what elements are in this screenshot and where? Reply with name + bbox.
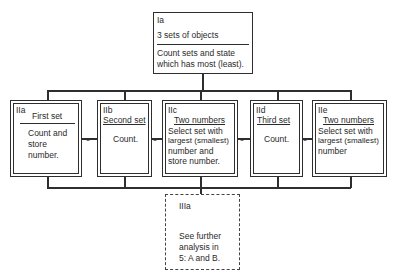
node-body-line: store [28, 139, 47, 150]
arrowhead-icon: ◂▸ [85, 136, 91, 142]
node-ia: Ia 3 sets of objects Count sets and stat… [153, 12, 253, 74]
node-title: Third set [257, 115, 290, 125]
node-body-line: 5: A and B. [179, 253, 220, 264]
node-body-line: number. [28, 150, 59, 161]
connector-drop-iid [277, 90, 279, 100]
node-iic: IIc Two numbers Select set with largest … [162, 100, 238, 177]
node-iie: IIe Two numbers Select set with largest … [312, 100, 387, 177]
connector-top-bus [47, 90, 351, 92]
node-title: 3 sets of objects [157, 30, 218, 41]
node-body-line: Select set with [318, 126, 373, 137]
node-iiia: IIIa See further analysis in 5: A and B. [165, 194, 240, 270]
node-body-line: Count. [264, 134, 289, 145]
node-body-line: which has most (least). [157, 59, 244, 70]
connector-rise-iie [350, 177, 352, 188]
connector-rise-iid [277, 177, 279, 188]
divider [157, 44, 249, 45]
node-body-line: number [318, 146, 347, 157]
node-id: Ia [157, 15, 164, 25]
connector-rise-iia [47, 177, 49, 188]
node-body-line: Count. [113, 134, 138, 145]
node-iib: IIb Second set Count. [97, 100, 152, 177]
node-id: IIa [16, 105, 25, 115]
connector-bottom-vertical [200, 187, 202, 194]
node-iid: IId Third set Count. [250, 100, 303, 177]
arrowhead-icon: ◂▸ [152, 136, 158, 142]
node-body-line: See further [179, 231, 221, 242]
node-iia: IIa First set Count and store number. [10, 100, 82, 177]
node-body-line: largest (smallest) [168, 136, 229, 147]
node-title: Second set [103, 115, 146, 125]
connector-drop-iib [124, 90, 126, 100]
connector-drop-iie [350, 90, 352, 100]
node-title: Two numbers [174, 115, 225, 125]
arrowhead-icon: ◂▸ [239, 136, 245, 142]
node-title: Two numbers [323, 115, 374, 125]
node-id: IIc [168, 105, 177, 115]
node-body-line: Count sets and state [157, 48, 235, 59]
connector-rise-iib [124, 177, 126, 188]
node-body-line: Count and [28, 128, 67, 139]
divider [20, 123, 75, 124]
node-id: IIIa [179, 201, 191, 211]
connector-top-vertical [202, 73, 204, 91]
connector-bottom-bus [47, 187, 351, 189]
node-body-line: number and [168, 146, 213, 157]
node-body-line: largest (smallest) [318, 136, 379, 147]
node-id: IIb [103, 105, 112, 115]
node-body-line: store number. [168, 156, 220, 167]
node-id: IId [256, 105, 265, 115]
node-body-line: analysis in [179, 242, 219, 253]
node-body-line: Select set with [168, 126, 223, 137]
node-id: IIe [318, 105, 327, 115]
connector-drop-iic [200, 90, 202, 100]
node-title: First set [32, 111, 62, 121]
connector-drop-iia [47, 90, 49, 100]
